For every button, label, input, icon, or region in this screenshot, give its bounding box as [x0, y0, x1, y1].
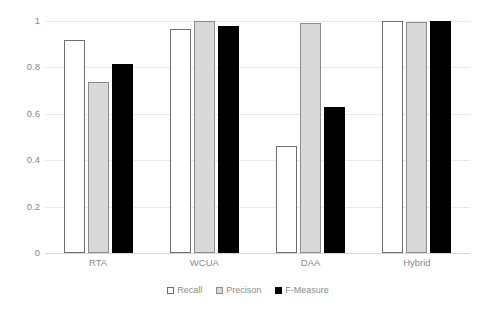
legend-label: F-Measure: [285, 285, 329, 295]
y-axis-tick-label: 0.6: [0, 109, 40, 119]
bar-group: Hybrid: [364, 21, 470, 253]
y-axis-labels: 00.20.40.60.81: [0, 21, 40, 253]
legend-label: Recall: [177, 285, 202, 295]
plot-area: RTAWCUADAAHybrid: [45, 21, 470, 253]
bar-group: WCUA: [151, 21, 257, 253]
bar-fmeasure[interactable]: [430, 21, 451, 253]
legend-item-recall[interactable]: Recall: [167, 285, 202, 295]
y-axis-tick-label: 0.2: [0, 202, 40, 212]
x-axis-category-label: WCUA: [151, 257, 257, 268]
bar-fmeasure[interactable]: [324, 107, 345, 253]
legend-swatch-icon: [216, 287, 223, 294]
bar-recall[interactable]: [170, 29, 191, 253]
x-axis-category-label: DAA: [258, 257, 364, 268]
y-axis-tick-label: 0.4: [0, 155, 40, 165]
bar-precision[interactable]: [406, 22, 427, 253]
legend-swatch-icon: [275, 287, 282, 294]
bars: [258, 21, 364, 253]
bar-recall[interactable]: [382, 21, 403, 253]
bar-group: DAA: [258, 21, 364, 253]
legend-swatch-icon: [167, 287, 174, 294]
bars: [364, 21, 470, 253]
bar-recall[interactable]: [276, 146, 297, 253]
legend-item-precision[interactable]: Precison: [216, 285, 261, 295]
bar-chart: 00.20.40.60.81 RTAWCUADAAHybrid RecallPr…: [0, 0, 496, 309]
bars: [45, 21, 151, 253]
y-axis-tick-label: 1: [0, 16, 40, 26]
bar-precision[interactable]: [88, 82, 109, 253]
bar-precision[interactable]: [194, 21, 215, 253]
gridline: [45, 253, 470, 254]
y-axis-tick-label: 0.8: [0, 62, 40, 72]
bar-precision[interactable]: [300, 23, 321, 253]
y-axis-tick-label: 0: [0, 248, 40, 258]
chart-legend: RecallPrecisonF-Measure: [0, 285, 496, 295]
bar-fmeasure[interactable]: [218, 26, 239, 253]
legend-item-fmeasure[interactable]: F-Measure: [275, 285, 329, 295]
x-axis-category-label: RTA: [45, 257, 151, 268]
legend-label: Precison: [226, 285, 261, 295]
x-axis-category-label: Hybrid: [364, 257, 470, 268]
bar-fmeasure[interactable]: [112, 64, 133, 253]
chart-title: [28, 0, 468, 3]
bar-group: RTA: [45, 21, 151, 253]
bar-recall[interactable]: [64, 40, 85, 253]
bars: [151, 21, 257, 253]
